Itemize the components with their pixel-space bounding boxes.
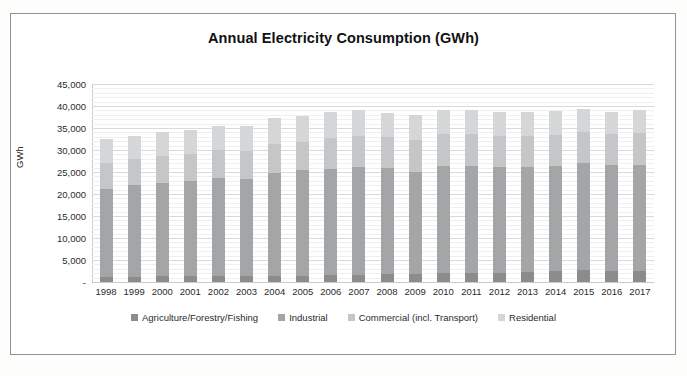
bar-column[interactable] xyxy=(633,84,646,282)
bar-segment xyxy=(296,276,309,282)
plot-area xyxy=(92,84,654,282)
y-axis-tick-label: 20,000 xyxy=(40,189,86,200)
bar-segment xyxy=(493,112,506,136)
bar-column[interactable] xyxy=(352,84,365,282)
bar-column[interactable] xyxy=(409,84,422,282)
gridline-minor xyxy=(92,97,654,98)
bar-segment xyxy=(324,169,337,275)
chart-legend: Agriculture/Forestry/FishingIndustrialCo… xyxy=(0,312,687,323)
bar-segment xyxy=(437,110,450,134)
bar-column[interactable] xyxy=(268,84,281,282)
legend-item[interactable]: Agriculture/Forestry/Fishing xyxy=(131,312,258,323)
bar-segment xyxy=(409,172,422,274)
gridline-minor xyxy=(92,256,654,257)
gridline-minor xyxy=(92,264,654,265)
gridline-minor xyxy=(92,110,654,111)
gridline-minor xyxy=(92,225,654,226)
bar-segment xyxy=(184,154,197,182)
bar-column[interactable] xyxy=(605,84,618,282)
legend-swatch-icon xyxy=(131,314,138,321)
bar-segment xyxy=(128,277,141,283)
bar-column[interactable] xyxy=(324,84,337,282)
bar-column[interactable] xyxy=(381,84,394,282)
gridline-minor xyxy=(92,278,654,279)
page-background: Annual Electricity Consumption (GWh) GWh… xyxy=(0,0,687,376)
bar-segment xyxy=(465,110,478,134)
bar-column[interactable] xyxy=(296,84,309,282)
gridline-minor xyxy=(92,115,654,116)
bar-segment xyxy=(521,167,534,272)
gridline-minor xyxy=(92,119,654,120)
legend-item[interactable]: Industrial xyxy=(278,312,328,323)
bar-column[interactable] xyxy=(465,84,478,282)
bar-segment xyxy=(381,113,394,137)
gridline-minor xyxy=(92,146,654,147)
bar-segment xyxy=(296,116,309,142)
bar-segment xyxy=(156,276,169,282)
bar-segment xyxy=(352,275,365,282)
bar-segment xyxy=(100,139,113,162)
y-axis-tick-label: 10,000 xyxy=(40,233,86,244)
bar-segment xyxy=(633,110,646,133)
bar-segment xyxy=(156,132,169,156)
gridline-major xyxy=(92,84,654,85)
gridline-minor xyxy=(92,269,654,270)
bar-segment xyxy=(409,274,422,282)
bar-segment xyxy=(240,126,253,151)
bar-segment xyxy=(605,112,618,135)
bar-segment xyxy=(352,167,365,275)
bar-column[interactable] xyxy=(240,84,253,282)
bar-column[interactable] xyxy=(577,84,590,282)
gridline-minor xyxy=(92,124,654,125)
bar-segment xyxy=(409,140,422,171)
gridline-minor xyxy=(92,247,654,248)
legend-item[interactable]: Commercial (incl. Transport) xyxy=(348,312,478,323)
bar-column[interactable] xyxy=(437,84,450,282)
bar-segment xyxy=(381,137,394,168)
bar-segment xyxy=(605,165,618,270)
legend-swatch-icon xyxy=(348,314,355,321)
bar-segment xyxy=(549,111,562,135)
bar-column[interactable] xyxy=(184,84,197,282)
y-axis-tick-label: - xyxy=(40,277,86,288)
bar-segment xyxy=(240,276,253,282)
bar-column[interactable] xyxy=(100,84,113,282)
bar-column[interactable] xyxy=(212,84,225,282)
bar-column[interactable] xyxy=(156,84,169,282)
bar-segment xyxy=(100,163,113,189)
bar-segment xyxy=(493,136,506,167)
legend-label: Agriculture/Forestry/Fishing xyxy=(142,312,258,323)
bar-column[interactable] xyxy=(549,84,562,282)
bar-column[interactable] xyxy=(521,84,534,282)
bar-segment xyxy=(100,189,113,277)
bar-segment xyxy=(296,142,309,170)
bar-column[interactable] xyxy=(128,84,141,282)
y-axis-tick-label: 45,000 xyxy=(40,79,86,90)
gridline-minor xyxy=(92,102,654,103)
bar-segment xyxy=(437,273,450,282)
gridline-minor xyxy=(92,234,654,235)
bar-segment xyxy=(212,178,225,276)
bar-segment xyxy=(465,273,478,282)
bar-segment xyxy=(352,136,365,167)
bar-segment xyxy=(465,166,478,273)
gridline-minor xyxy=(92,176,654,177)
x-axis-tick-label: 2017 xyxy=(624,286,656,297)
bar-segment xyxy=(268,276,281,282)
legend-item[interactable]: Residential xyxy=(498,312,556,323)
gridline-minor xyxy=(92,198,654,199)
gridline-minor xyxy=(92,207,654,208)
bar-segment xyxy=(268,144,281,173)
bar-segment xyxy=(100,277,113,283)
bar-segment xyxy=(633,271,646,282)
gridline-minor xyxy=(92,203,654,204)
gridline-minor xyxy=(92,242,654,243)
bar-segment xyxy=(465,134,478,166)
bar-segment xyxy=(521,272,534,282)
bar-column[interactable] xyxy=(493,84,506,282)
y-axis-tick-label: 25,000 xyxy=(40,167,86,178)
bar-segment xyxy=(156,183,169,276)
bar-segment xyxy=(381,274,394,282)
bar-segment xyxy=(521,112,534,136)
bar-segment xyxy=(549,271,562,282)
